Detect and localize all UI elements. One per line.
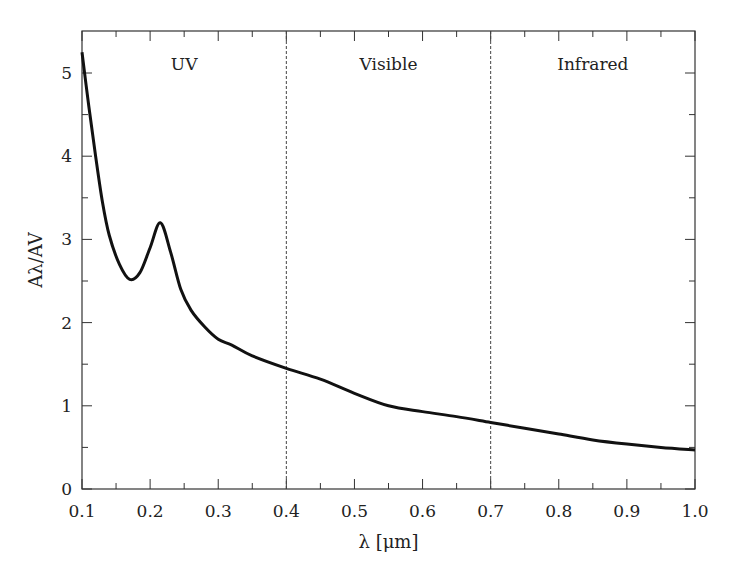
region-label-infrared: Infrared xyxy=(557,54,628,74)
extinction-curve xyxy=(82,52,695,450)
chart-container: 0.10.20.30.40.50.60.70.80.91.0012345UVVi… xyxy=(0,0,733,572)
x-tick-label: 0.6 xyxy=(409,501,436,521)
x-tick-label: 0.3 xyxy=(205,501,232,521)
x-tick-label: 0.5 xyxy=(341,501,368,521)
x-tick-label: 0.8 xyxy=(545,501,572,521)
y-tick-label: 2 xyxy=(61,313,72,333)
x-axis-label: λ [μm] xyxy=(359,531,419,552)
x-tick-label: 0.7 xyxy=(477,501,504,521)
y-tick-label: 3 xyxy=(61,229,72,249)
x-tick-label: 0.4 xyxy=(273,501,300,521)
region-label-uv: UV xyxy=(171,54,198,74)
y-tick-label: 5 xyxy=(61,63,72,83)
y-tick-label: 1 xyxy=(61,396,72,416)
x-tick-label: 0.9 xyxy=(613,501,640,521)
y-axis-label: Aλ/AV xyxy=(25,231,46,289)
region-label-visible: Visible xyxy=(359,54,418,74)
extinction-chart: 0.10.20.30.40.50.60.70.80.91.0012345UVVi… xyxy=(0,0,733,572)
y-tick-label: 4 xyxy=(61,146,72,166)
x-tick-label: 0.1 xyxy=(68,501,95,521)
x-tick-label: 1.0 xyxy=(681,501,708,521)
x-tick-label: 0.2 xyxy=(137,501,164,521)
y-tick-label: 0 xyxy=(61,479,72,499)
